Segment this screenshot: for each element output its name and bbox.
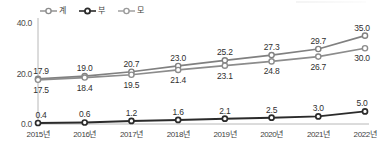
x-axis-tick-label: 2022년 (345, 128, 382, 139)
data-point-label: 19.0 (68, 63, 102, 73)
data-point-label: 29.7 (301, 36, 335, 46)
data-point-label: 1.2 (114, 108, 148, 118)
data-point-label: 24.8 (255, 66, 289, 76)
chart-legend: 계 부 모 (40, 4, 143, 18)
data-point-label: 26.7 (301, 62, 335, 72)
data-point-label: 23.0 (161, 53, 195, 63)
x-axis-tick-label: 2017년 (111, 128, 151, 139)
data-point-label: 25.2 (208, 47, 242, 57)
data-point-label: 21.4 (161, 75, 195, 85)
x-axis-tick-label: 2021년 (298, 128, 338, 139)
data-point-label: 5.0 (345, 98, 379, 108)
legend-label: 부 (98, 7, 105, 15)
x-axis-tick-label: 2015년 (18, 128, 58, 139)
x-axis-tick-label: 2019년 (205, 128, 245, 139)
data-point-label: 20.7 (114, 59, 148, 69)
y-axis-tick-label: 40.0 (2, 18, 32, 28)
data-point-label: 2.5 (255, 105, 289, 115)
data-point-label: 2.1 (208, 106, 242, 116)
data-point-label: 0.4 (24, 110, 58, 120)
data-point-label: 18.4 (68, 83, 102, 93)
x-axis-tick-label: 2020년 (252, 128, 292, 139)
legend-label: 계 (59, 7, 66, 15)
data-point-label: 0.6 (68, 109, 102, 119)
x-axis-tick-label: 2018년 (158, 128, 198, 139)
data-point-label: 17.9 (24, 66, 58, 76)
data-point-label: 23.1 (208, 71, 242, 81)
data-point-label: 30.0 (345, 53, 379, 63)
data-point-label: 3.0 (301, 103, 335, 113)
scan-artifact (296, 1, 366, 3)
data-point-label: 17.5 (24, 85, 58, 95)
x-axis-tick-label: 2016년 (65, 128, 105, 139)
data-point-label: 1.6 (161, 107, 195, 117)
data-point-label: 27.3 (255, 42, 289, 52)
data-point-label: 19.5 (114, 80, 148, 90)
data-point-label: 35.0 (345, 23, 379, 33)
legend-label: 모 (137, 7, 144, 15)
